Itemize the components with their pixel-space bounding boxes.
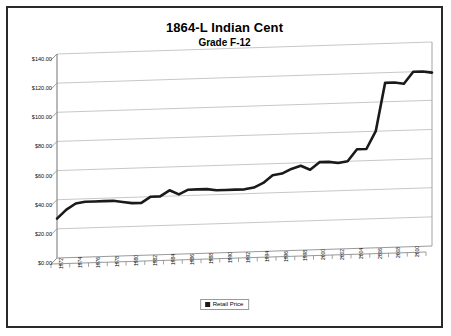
- chart-frame: 1864-L Indian Cent Grade F-12 $0.00$20.0…: [6, 6, 443, 328]
- x-axis-tick-label: 1990: [228, 252, 233, 263]
- x-axis-tick-label: 1972: [59, 258, 64, 269]
- x-axis-tick-label: 2006: [378, 247, 383, 258]
- legend-label: Retail Price: [213, 301, 244, 307]
- axis-lines: [51, 42, 432, 264]
- x-axis-tick-label: 1988: [209, 253, 214, 264]
- chart-legend: Retail Price: [200, 299, 250, 310]
- x-axis-tick-label: 2004: [359, 248, 364, 259]
- y-axis-tick-label: $40.00: [8, 203, 52, 209]
- x-axis-tick-label: 1978: [115, 256, 120, 267]
- gridlines: [57, 42, 432, 258]
- y-axis-tick-label: $60.00: [8, 174, 52, 180]
- gridline: [57, 217, 432, 229]
- x-axis-tick-label: 1996: [284, 250, 289, 261]
- y-axis-tick-label: $20.00: [8, 232, 52, 238]
- x-axis-tick-label: 2010: [415, 246, 420, 257]
- x-axis-tick-label: 1992: [246, 252, 251, 263]
- x-axis-tick-label: 2008: [396, 247, 401, 258]
- gridline: [57, 100, 432, 112]
- x-axis-tick-label: 1986: [190, 253, 195, 264]
- x-axis-tick-label: 1984: [171, 254, 176, 265]
- plot-area: [8, 8, 445, 330]
- y-axis-tick-label: $140.00: [8, 57, 52, 63]
- y-axis-tick-label: $120.00: [8, 86, 52, 92]
- gridline: [57, 159, 432, 171]
- x-axis-tick-label: 1998: [303, 250, 308, 261]
- x-axis-tick-label: 1974: [78, 257, 83, 268]
- x-axis-tick-label: 2000: [321, 249, 326, 260]
- x-axis-tick-label: 2002: [340, 249, 345, 260]
- y-axis-tick-label: $80.00: [8, 144, 52, 150]
- gridline: [57, 71, 432, 83]
- x-axis-tick-label: 1994: [265, 251, 270, 262]
- y-axis-tick-label: $0.00: [8, 261, 52, 267]
- gridline: [57, 42, 432, 54]
- legend-swatch-icon: [205, 302, 210, 307]
- x-axis-tick-label: 1980: [134, 255, 139, 266]
- chart-container: 1864-L Indian Cent Grade F-12 $0.00$20.0…: [8, 8, 441, 326]
- x-axis-tick-label: 1982: [153, 255, 158, 266]
- x-axis-tick-label: 1976: [96, 256, 101, 267]
- y-axis-tick-label: $100.00: [8, 115, 52, 121]
- axis-tick-marks: [51, 54, 426, 268]
- series-line-retail-price: [57, 71, 432, 218]
